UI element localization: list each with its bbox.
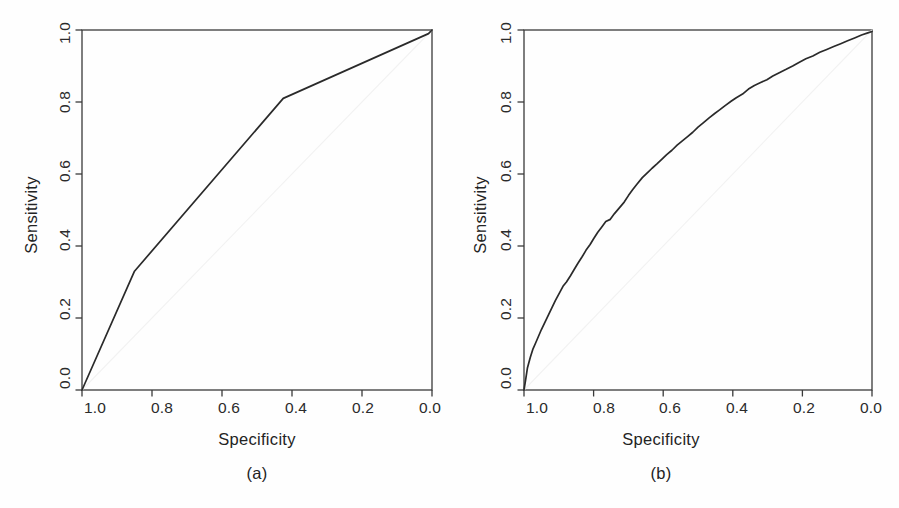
y-tick-b-0: 0.0 [497,367,515,389]
x-tick-b-4: 0.2 [793,399,815,417]
y-axis-title-a: Sensitivity [22,176,41,254]
x-tick-a-0: 1.0 [84,399,106,417]
x-tick-b-3: 0.4 [726,399,748,417]
figure-root: Specificity Sensitivity (a) 1.0 0.8 0.6 … [0,0,899,508]
y-tick-b-5: 1.0 [497,22,515,44]
panel-caption-a: (a) [246,464,267,483]
roc-panel-b: Specificity Sensitivity (b) 1.0 0.8 0.6 … [449,0,898,508]
x-tick-b-5: 0.0 [860,399,882,417]
x-tick-a-2: 0.6 [218,399,240,417]
y-tick-a-0: 0.0 [56,367,74,389]
y-tick-b-4: 0.8 [497,91,515,113]
x-tick-b-0: 1.0 [526,399,548,417]
panel-caption-b: (b) [650,464,671,483]
x-axis-title-b: Specificity [622,430,700,449]
x-tick-b-2: 0.6 [659,399,681,417]
y-tick-b-1: 0.2 [497,298,515,320]
y-tick-a-2: 0.4 [56,229,74,251]
x-axis-title-a: Specificity [218,430,296,449]
x-tick-a-5: 0.0 [419,399,441,417]
x-tick-a-4: 0.2 [352,399,374,417]
y-tick-a-5: 1.0 [56,22,74,44]
x-tick-a-3: 0.4 [285,399,307,417]
roc-panel-a: Specificity Sensitivity (a) 1.0 0.8 0.6 … [0,0,449,508]
x-tick-b-1: 0.8 [593,399,615,417]
y-tick-a-4: 0.8 [56,91,74,113]
y-tick-b-3: 0.6 [497,160,515,182]
y-tick-a-1: 0.2 [56,298,74,320]
x-tick-a-1: 0.8 [151,399,173,417]
y-tick-b-2: 0.4 [497,229,515,251]
y-axis-title-b: Sensitivity [471,176,490,254]
y-tick-a-3: 0.6 [56,160,74,182]
